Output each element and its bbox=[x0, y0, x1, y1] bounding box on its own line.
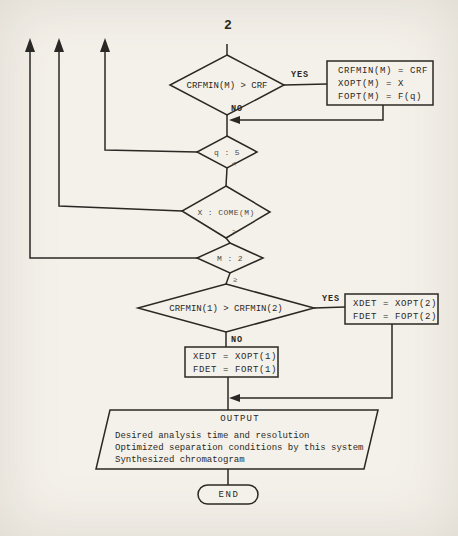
output-line2: Optimized separation conditions by this … bbox=[115, 443, 363, 453]
decision-crfmin1-crfmin2-label: CRFMIN(1) > CRFMIN(2) bbox=[169, 304, 282, 314]
flowchart-page: 2 CRFMIN(M) > CRF YES NO CRFMIN(M) = CRF… bbox=[0, 0, 458, 536]
box2-line1: XDET = XOPT(2) bbox=[353, 299, 437, 309]
up-arrowhead-2 bbox=[54, 38, 64, 52]
box1-line2: XOPT(M) = X bbox=[338, 79, 404, 89]
up-arrowhead-3 bbox=[100, 38, 110, 52]
no-label-1: NO bbox=[231, 104, 243, 114]
no-label-2: NO bbox=[231, 335, 243, 345]
loopback-arrow-2 bbox=[54, 38, 182, 211]
box3-line2: FDET = FORT(1) bbox=[193, 365, 277, 375]
spine-3 bbox=[226, 238, 230, 243]
decision-crfmin-crf-label: CRFMIN(M) > CRF bbox=[186, 81, 267, 91]
box2-line2: FDET = FOPT(2) bbox=[353, 312, 437, 322]
yes-label-1: YES bbox=[291, 70, 309, 80]
loopback-arrow-3 bbox=[100, 38, 197, 152]
output-line3: Synthesized chromatogram bbox=[115, 455, 245, 465]
decision-m-2-label: M : 2 bbox=[217, 254, 243, 264]
output-title: OUTPUT bbox=[220, 414, 260, 424]
branch-mark-m: ≥ bbox=[233, 275, 237, 285]
yes-label-2: YES bbox=[322, 294, 340, 304]
spine-4 bbox=[226, 273, 230, 284]
decision-x-come-label: X : COME(M) bbox=[197, 208, 254, 218]
output-line1: Desired analysis time and resolution bbox=[115, 431, 309, 441]
end-label: END bbox=[218, 490, 239, 500]
up-arrowhead-1 bbox=[25, 38, 35, 52]
branch-mark-q: < bbox=[232, 159, 236, 169]
left-arrowhead-1 bbox=[229, 116, 240, 124]
yes1-line bbox=[284, 84, 327, 85]
spine-2 bbox=[226, 168, 227, 186]
left-arrowhead-2 bbox=[229, 394, 240, 402]
box3-line1: XEDT = XOPT(1) bbox=[193, 352, 277, 362]
yes2-line bbox=[314, 307, 345, 308]
box1-line1: CRFMIN(M) = CRF bbox=[338, 66, 428, 76]
connector-2-label: 2 bbox=[224, 21, 232, 31]
loopback-arrow-1 bbox=[25, 38, 197, 258]
box1-line3: FOPT(M) = F(q) bbox=[338, 92, 422, 102]
branch-mark-x: > bbox=[232, 227, 236, 237]
box1-return-line bbox=[229, 105, 383, 124]
decision-q-5-label: q : 5 bbox=[214, 148, 240, 158]
